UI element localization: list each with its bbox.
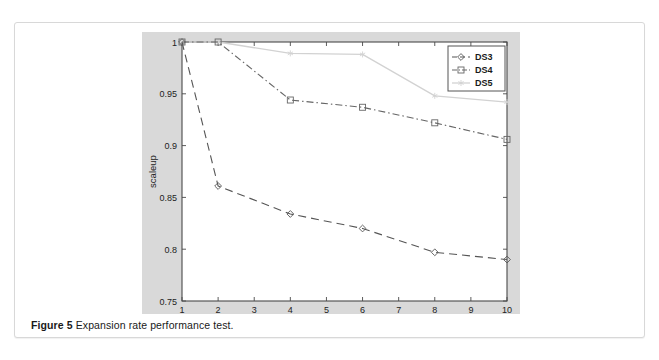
x-tick-label: 1: [179, 305, 184, 314]
chart-plot-area: 0.750.80.850.90.951 12345678910 number o…: [142, 32, 520, 314]
y-tick-label: 0.85: [159, 193, 177, 203]
y-axis-tick-labels: 0.750.80.850.90.951: [159, 38, 177, 307]
chart-legend: DS3DS4DS5: [448, 46, 505, 91]
x-tick-label: 6: [360, 305, 365, 314]
expansion-rate-line-chart: 0.750.80.850.90.951 12345678910 number o…: [142, 32, 520, 314]
x-tick-label: 10: [502, 305, 512, 314]
figure-caption-text: Expansion rate performance test.: [76, 319, 234, 331]
x-axis-tick-labels: 12345678910: [179, 305, 512, 314]
figure-card: 0.750.80.850.90.951 12345678910 number o…: [14, 22, 645, 338]
x-tick-label: 9: [468, 305, 473, 314]
legend-label-ds4: DS4: [475, 65, 493, 75]
y-tick-label: 1: [172, 38, 177, 48]
x-tick-label: 2: [216, 305, 221, 314]
legend-label-ds5: DS5: [475, 78, 493, 88]
y-tick-label: 0.75: [159, 297, 177, 307]
legend-label-ds3: DS3: [475, 52, 493, 62]
x-tick-label: 8: [432, 305, 437, 314]
figure-caption-label: Figure 5: [31, 319, 73, 331]
x-tick-label: 5: [324, 305, 329, 314]
x-tick-label: 7: [396, 305, 401, 314]
x-tick-label: 4: [288, 305, 293, 314]
figure-caption: Figure 5 Expansion rate performance test…: [31, 319, 631, 333]
y-tick-label: 0.95: [159, 89, 177, 99]
y-tick-label: 0.9: [164, 141, 177, 151]
x-tick-label: 3: [252, 305, 257, 314]
y-axis-title: scaleup: [147, 155, 158, 188]
y-tick-label: 0.8: [164, 245, 177, 255]
